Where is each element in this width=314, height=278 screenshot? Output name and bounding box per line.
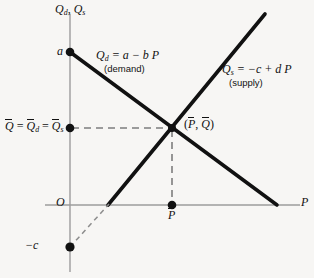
supply-equation-label: Qs = −c + d P <box>222 63 292 77</box>
supply-intercept-label: −c <box>25 239 38 251</box>
y-axis-label: Qd, Qs <box>55 3 85 17</box>
plot-canvas <box>0 0 314 278</box>
equilibrium-quantity-eq-2: = <box>39 119 52 133</box>
equilibrium-quantity-qs-sub: s <box>61 125 64 134</box>
x-axis-label: P <box>301 196 308 208</box>
supply-intercept-dot <box>65 242 74 251</box>
equilibrium-point-p: P <box>188 118 195 130</box>
equilibrium-price-label: P <box>168 209 175 221</box>
demand-equation-lhs: Q <box>96 48 105 62</box>
equilibrium-quantity-dot <box>66 124 75 133</box>
equilibrium-point-dot <box>168 124 176 132</box>
y-axis-label-qd: Q <box>55 2 64 16</box>
equilibrium-quantity-q: Q <box>5 120 14 132</box>
demand-caption: (demand) <box>104 64 145 74</box>
demand-equation-label: Qd = a − b P <box>96 49 159 63</box>
demand-intercept-label: a <box>57 45 63 57</box>
supply-equation-rhs: = −c + d P <box>234 62 292 76</box>
supply-demand-figure: Qd, Qs a Qd = a − b P (demand) Qs = −c +… <box>0 0 314 278</box>
supply-equation-lhs: Q <box>222 62 231 76</box>
equilibrium-point-q: Q <box>201 118 210 130</box>
supply-curve <box>108 14 265 205</box>
equilibrium-quantity-label: Q = Qd = Qs <box>5 120 64 134</box>
supply-caption: (supply) <box>229 78 263 88</box>
equilibrium-quantity-qs: Q <box>52 120 61 132</box>
demand-intercept-dot <box>66 48 75 57</box>
supply-curve-dashed-extension <box>70 204 109 247</box>
equilibrium-price-p: P <box>168 209 175 221</box>
equilibrium-point-label: (P, Q) <box>184 118 214 130</box>
origin-label: O <box>56 196 65 208</box>
equilibrium-quantity-qd: Q <box>26 120 35 132</box>
y-axis-label-qs-sub: s <box>82 8 85 17</box>
equilibrium-point-paren-close: ) <box>210 117 214 131</box>
demand-equation-rhs: = a − b P <box>109 48 160 62</box>
y-axis-label-qs: Q <box>74 2 83 16</box>
equilibrium-quantity-eq-1: = <box>14 119 27 133</box>
